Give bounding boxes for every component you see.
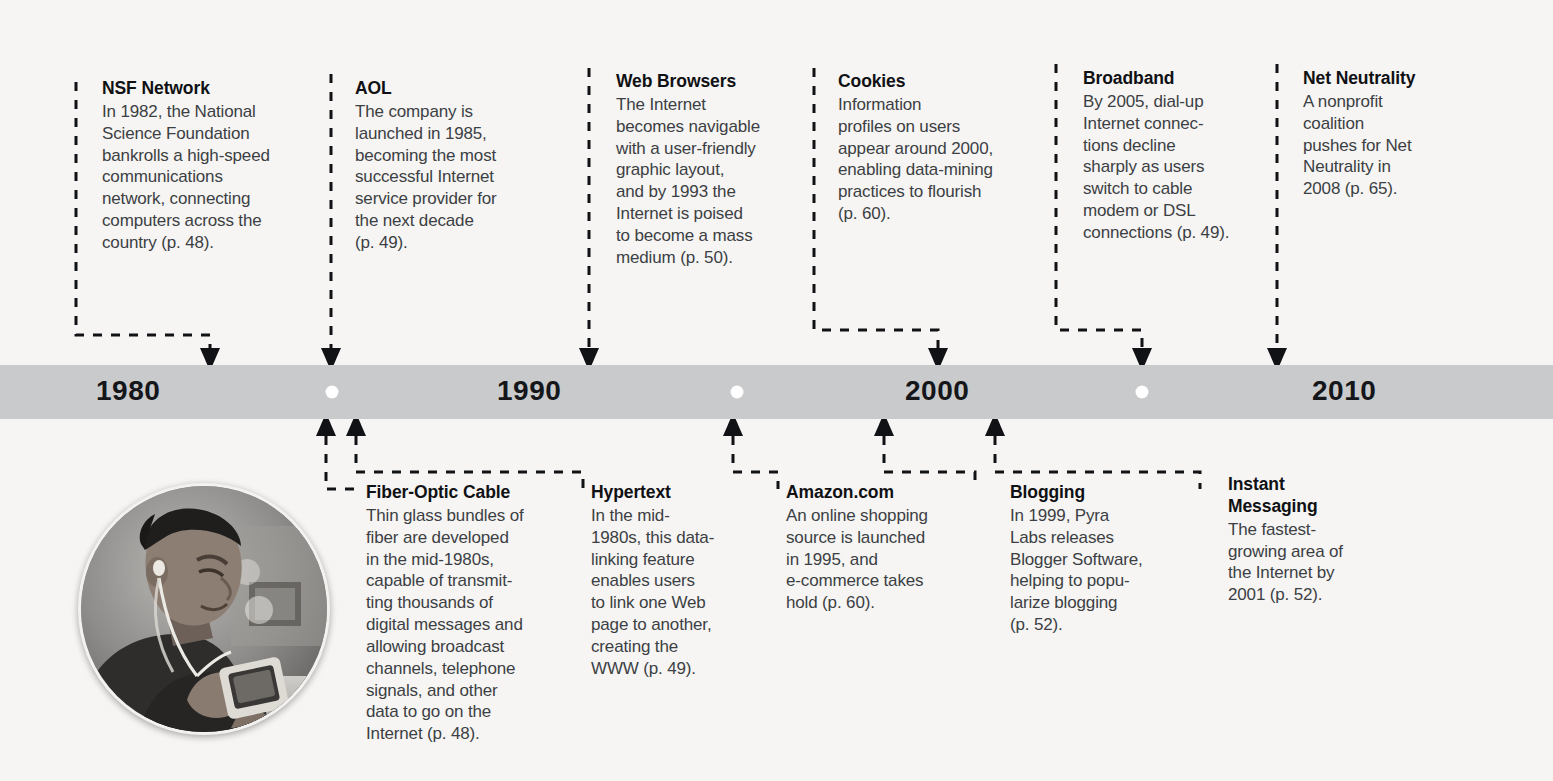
- timeline-infographic: 1980 1990 2000 2010 NSF Network In 1982,…: [0, 0, 1553, 781]
- decade-marker-dot-1995: [731, 386, 744, 399]
- entry-title-fiber-optic-cable: Fiber-Optic Cable: [366, 482, 566, 504]
- entry-title-instant-messaging: Instant Messaging: [1228, 474, 1403, 518]
- entry-body-web-browsers: The Internet becomes navigable with a us…: [616, 94, 806, 269]
- entry-title-cookies: Cookies: [838, 71, 1048, 93]
- entry-title-aol: AOL: [355, 78, 545, 100]
- entry-cookies: Cookies Information profiles on users ap…: [838, 71, 1048, 225]
- entry-body-nsf-network: In 1982, the National Science Foundation…: [102, 101, 314, 254]
- entry-body-amazon-com: An online shopping source is launched in…: [786, 505, 971, 614]
- entry-body-instant-messaging: The fastest- growing area of the Interne…: [1228, 519, 1403, 606]
- year-label-1990: 1990: [497, 375, 561, 407]
- entry-blogging: Blogging In 1999, Pyra Labs releases Blo…: [1010, 482, 1185, 636]
- photo-teen-with-device: [78, 483, 330, 735]
- entry-net-neutrality: Net Neutrality A nonprofit coalition pus…: [1303, 68, 1483, 200]
- entry-body-broadband: By 2005, dial-up Internet connec- tions …: [1083, 91, 1273, 244]
- entry-title-blogging: Blogging: [1010, 482, 1185, 504]
- year-label-1980: 1980: [96, 375, 160, 407]
- entry-fiber-optic-cable: Fiber-Optic Cable Thin glass bundles of …: [366, 482, 566, 745]
- entry-body-aol: The company is launched in 1985, becomin…: [355, 101, 545, 254]
- photo-illustration: [81, 486, 327, 732]
- decade-marker-dot-1985: [326, 386, 339, 399]
- entry-aol: AOL The company is launched in 1985, bec…: [355, 78, 545, 254]
- year-label-2000: 2000: [905, 375, 969, 407]
- entry-nsf-network: NSF Network In 1982, the National Scienc…: [102, 78, 314, 254]
- entry-title-web-browsers: Web Browsers: [616, 71, 806, 93]
- entry-web-browsers: Web Browsers The Internet becomes naviga…: [616, 71, 806, 269]
- entry-title-nsf-network: NSF Network: [102, 78, 314, 100]
- entry-hypertext: Hypertext In the mid- 1980s, this data- …: [591, 482, 751, 680]
- timeline-bar-inner: 1980 1990 2000 2010: [0, 365, 1553, 419]
- entry-body-net-neutrality: A nonprofit coalition pushes for Net Neu…: [1303, 91, 1483, 200]
- entry-broadband: Broadband By 2005, dial-up Internet conn…: [1083, 68, 1273, 244]
- entry-body-fiber-optic-cable: Thin glass bundles of fiber are develope…: [366, 505, 566, 745]
- entry-title-net-neutrality: Net Neutrality: [1303, 68, 1483, 90]
- entry-amazon-com: Amazon.com An online shopping source is …: [786, 482, 971, 614]
- entry-body-blogging: In 1999, Pyra Labs releases Blogger Soft…: [1010, 505, 1185, 636]
- entry-title-hypertext: Hypertext: [591, 482, 751, 504]
- entry-title-amazon-com: Amazon.com: [786, 482, 971, 504]
- entry-instant-messaging: Instant Messaging The fastest- growing a…: [1228, 474, 1403, 606]
- entry-body-cookies: Information profiles on users appear aro…: [838, 94, 1048, 225]
- entry-body-hypertext: In the mid- 1980s, this data- linking fe…: [591, 505, 751, 680]
- year-label-2010: 2010: [1312, 375, 1376, 407]
- decade-marker-dot-2005: [1136, 386, 1149, 399]
- entry-title-broadband: Broadband: [1083, 68, 1273, 90]
- timeline-bar: 1980 1990 2000 2010: [0, 365, 1553, 419]
